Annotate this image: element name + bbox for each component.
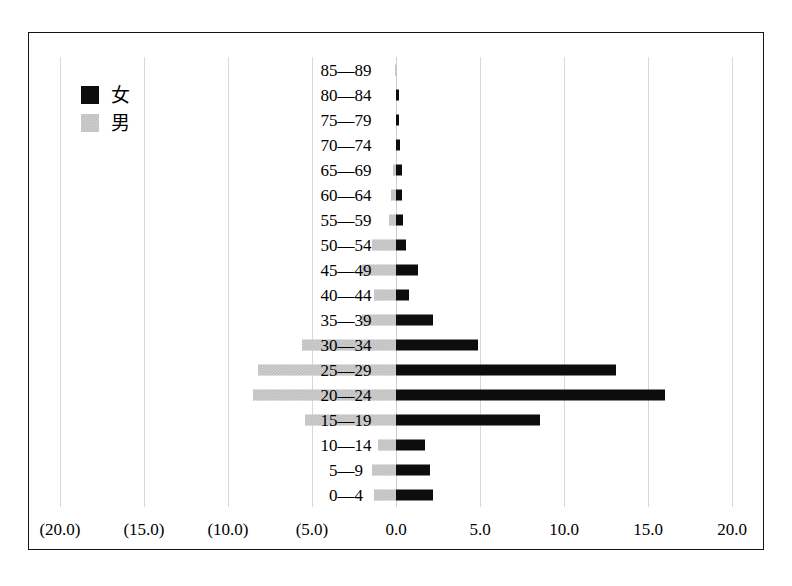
legend-label-female: 女 — [111, 85, 130, 105]
bar-female — [396, 139, 400, 150]
age-group-label: 40—44 — [300, 285, 392, 304]
age-group-label: 15—19 — [300, 410, 392, 429]
bar-female — [396, 489, 433, 500]
age-group-label: 10—14 — [300, 435, 392, 454]
bar-row: 55—59 — [29, 207, 763, 232]
x-tick-label: 10.0 — [529, 519, 599, 541]
age-group-label: 70—74 — [300, 135, 392, 154]
age-group-label: 55—59 — [300, 210, 392, 229]
bar-female — [396, 189, 402, 200]
bar-female — [396, 314, 433, 325]
age-group-label: 35—39 — [300, 310, 392, 329]
x-axis-tick-labels: (20.0)(15.0)(10.0)(5.0)0.05.010.015.020.… — [29, 519, 763, 549]
bar-row: 65—69 — [29, 157, 763, 182]
age-group-label: 60—64 — [300, 185, 392, 204]
bar-row: 40—44 — [29, 282, 763, 307]
bar-female — [396, 339, 478, 350]
bar-female — [396, 89, 399, 100]
bar-row: 85—89 — [29, 57, 763, 82]
x-tick-label: (5.0) — [277, 519, 347, 541]
age-group-label: 20—24 — [300, 385, 392, 404]
legend-swatch-female-icon — [81, 86, 99, 104]
chart-frame: 85—8980—8475—7970—7465—6960—6455—5950—54… — [28, 32, 764, 550]
age-group-label: 45—49 — [300, 260, 392, 279]
bar-female — [396, 239, 406, 250]
bar-row: 15—19 — [29, 407, 763, 432]
bar-female — [396, 264, 418, 275]
bar-row: 0—4 — [29, 482, 763, 507]
bar-female — [396, 364, 616, 375]
bar-female — [396, 164, 402, 175]
bar-row: 30—34 — [29, 332, 763, 357]
bar-female — [396, 414, 540, 425]
x-tick-label: (20.0) — [25, 519, 95, 541]
x-tick-label: 0.0 — [361, 519, 431, 541]
bar-row: 60—64 — [29, 182, 763, 207]
bar-female — [396, 114, 399, 125]
legend-item-female: 女 — [81, 81, 201, 109]
bar-row: 10—14 — [29, 432, 763, 457]
x-tick-label: 5.0 — [445, 519, 515, 541]
age-group-label: 85—89 — [300, 60, 392, 79]
bar-row: 50—54 — [29, 232, 763, 257]
age-group-label: 80—84 — [300, 85, 392, 104]
bar-row: 5—9 — [29, 457, 763, 482]
age-group-label: 0—4 — [300, 485, 392, 504]
age-group-label: 25—29 — [300, 360, 392, 379]
chart-legend: 女 男 — [81, 81, 201, 137]
bar-female — [396, 439, 425, 450]
bar-row: 45—49 — [29, 257, 763, 282]
age-group-label: 65—69 — [300, 160, 392, 179]
x-tick-label: 15.0 — [613, 519, 683, 541]
age-group-label: 30—34 — [300, 335, 392, 354]
age-group-label: 75—79 — [300, 110, 392, 129]
bar-female — [396, 289, 409, 300]
legend-item-male: 男 — [81, 109, 201, 137]
bar-female — [396, 214, 403, 225]
legend-swatch-male-icon — [81, 114, 99, 132]
legend-label-male: 男 — [111, 113, 130, 133]
bar-row: 35—39 — [29, 307, 763, 332]
bar-row: 20—24 — [29, 382, 763, 407]
bar-row: 25—29 — [29, 357, 763, 382]
age-group-label: 5—9 — [300, 460, 392, 479]
x-tick-label: (10.0) — [193, 519, 263, 541]
bar-male — [395, 64, 397, 75]
bar-female — [396, 389, 665, 400]
x-tick-label: 20.0 — [697, 519, 767, 541]
age-group-label: 50—54 — [300, 235, 392, 254]
x-tick-label: (15.0) — [109, 519, 179, 541]
bar-female — [396, 464, 430, 475]
